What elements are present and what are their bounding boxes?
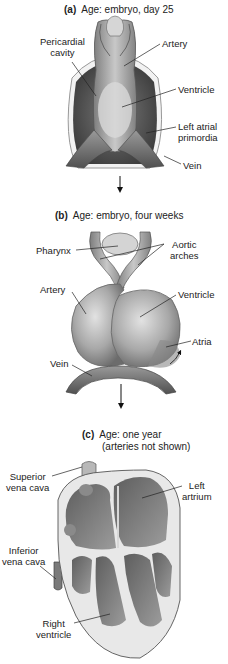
label-line: Inferior bbox=[2, 545, 45, 556]
panel-a-letter: (a) bbox=[64, 4, 76, 15]
label-artery-a: Artery bbox=[162, 38, 187, 49]
label-left-atrium: Left artrium bbox=[182, 480, 212, 502]
panel-b-title-text: Age: embryo, four weeks bbox=[73, 210, 184, 221]
label-line: Superior bbox=[6, 471, 49, 482]
label-artery-b: Artery bbox=[40, 284, 65, 295]
label-line: cavity bbox=[40, 47, 85, 58]
label-vein-b: Vein bbox=[50, 358, 69, 369]
label-line: vena cava bbox=[6, 482, 49, 493]
panel-c-subtitle: (arteries not shown) bbox=[102, 441, 190, 452]
panel-a-title-text: Age: embryo, day 25 bbox=[81, 4, 173, 15]
label-atria: Atria bbox=[192, 336, 212, 347]
label-inferior-vena-cava: Inferior vena cava bbox=[2, 545, 45, 567]
panel-b-letter: (b) bbox=[55, 210, 68, 221]
panel-c-title: (c) Age: one year bbox=[82, 429, 162, 440]
label-ventricle-a: Ventricle bbox=[178, 84, 214, 95]
label-aortic-arches: Aortic arches bbox=[170, 239, 199, 261]
panel-b-title: (b) Age: embryo, four weeks bbox=[55, 210, 183, 221]
label-line: Right bbox=[36, 618, 71, 629]
label-line: Left bbox=[182, 480, 212, 491]
panel-a-title: (a) Age: embryo, day 25 bbox=[64, 4, 174, 15]
label-line: primordia bbox=[178, 132, 218, 143]
label-line: ventricle bbox=[36, 629, 71, 640]
panel-c-title-text: Age: one year bbox=[99, 429, 161, 440]
label-line: arches bbox=[170, 250, 199, 261]
label-vein-a: Vein bbox=[183, 160, 202, 171]
panel-c-letter: (c) bbox=[82, 429, 94, 440]
label-line: artrium bbox=[182, 491, 212, 502]
label-line: Pericardial bbox=[40, 36, 85, 47]
label-left-atrial-primordia: Left atrial primordia bbox=[178, 121, 218, 143]
label-superior-vena-cava: Superior vena cava bbox=[6, 471, 49, 493]
label-pharynx: Pharynx bbox=[36, 245, 71, 256]
label-line: Aortic bbox=[170, 239, 199, 250]
label-pericardial-cavity: Pericardial cavity bbox=[40, 36, 85, 58]
label-line: vena cava bbox=[2, 556, 45, 567]
label-ventricle-b: Ventricle bbox=[178, 289, 214, 300]
label-right-ventricle: Right ventricle bbox=[36, 618, 71, 640]
label-line: Left atrial bbox=[178, 121, 218, 132]
